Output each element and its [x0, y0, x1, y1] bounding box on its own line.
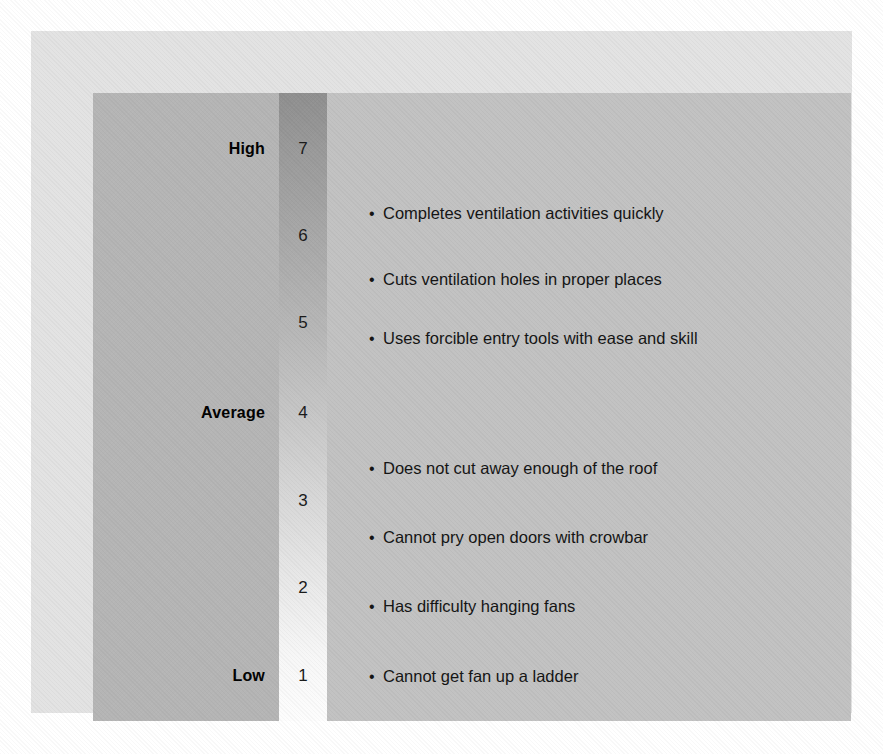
bullet-icon: •	[369, 330, 383, 348]
scale-number-4: 4	[279, 403, 327, 423]
behavior-descriptor-column: •Completes ventilation activities quickl…	[327, 93, 851, 721]
figure-outer-panel: High Average Low 7 6 5 4 3 2 1 •Complete…	[31, 31, 852, 713]
rating-scale-panel: High Average Low 7 6 5 4 3 2 1 •Complete…	[93, 93, 851, 721]
scale-number-7: 7	[279, 139, 327, 159]
scale-number-3: 3	[279, 491, 327, 511]
bullet-icon: •	[369, 271, 383, 289]
descriptor-item: •Completes ventilation activities quickl…	[369, 204, 664, 223]
bullet-icon: •	[369, 529, 383, 547]
anchor-label-average: Average	[201, 404, 265, 422]
descriptor-text: Does not cut away enough of the roof	[383, 459, 657, 477]
bullet-icon: •	[369, 460, 383, 478]
descriptor-text: Uses forcible entry tools with ease and …	[383, 329, 698, 347]
anchor-label-high: High	[229, 140, 265, 158]
rating-gradient-column: 7 6 5 4 3 2 1	[279, 93, 327, 721]
descriptor-text: Completes ventilation activities quickly	[383, 204, 664, 222]
descriptor-item: •Cannot pry open doors with crowbar	[369, 528, 648, 547]
descriptor-item: •Uses forcible entry tools with ease and…	[369, 329, 698, 348]
rating-scale-figure: High Average Low 7 6 5 4 3 2 1 •Complete…	[0, 0, 883, 754]
anchor-label-column: High Average Low	[93, 93, 279, 721]
scale-number-1: 1	[279, 666, 327, 686]
descriptor-item: •Cuts ventilation holes in proper places	[369, 270, 662, 289]
descriptor-item: •Does not cut away enough of the roof	[369, 459, 657, 478]
descriptor-text: Cuts ventilation holes in proper places	[383, 270, 662, 288]
scale-number-2: 2	[279, 578, 327, 598]
descriptor-item: •Has difficulty hanging fans	[369, 597, 575, 616]
scale-number-5: 5	[279, 313, 327, 333]
descriptor-text: Cannot get fan up a ladder	[383, 667, 578, 685]
bullet-icon: •	[369, 668, 383, 686]
anchor-label-low: Low	[232, 667, 265, 685]
bullet-icon: •	[369, 598, 383, 616]
descriptor-text: Cannot pry open doors with crowbar	[383, 528, 648, 546]
descriptor-text: Has difficulty hanging fans	[383, 597, 575, 615]
scale-number-6: 6	[279, 226, 327, 246]
descriptor-item: •Cannot get fan up a ladder	[369, 667, 578, 686]
bullet-icon: •	[369, 205, 383, 223]
